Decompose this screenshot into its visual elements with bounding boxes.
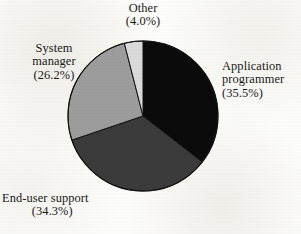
pie-label-system-manager-line1: System	[35, 41, 72, 55]
pie-label-other-percent: (4.0%)	[106, 15, 180, 28]
pie-label-other: Other (4.0%)	[106, 2, 180, 29]
pie-label-end-user-support-name: End-user support	[2, 191, 89, 205]
pie-label-application-programmer-line2: programmer	[222, 72, 284, 86]
pie-label-system-manager: System manager (26.2%)	[12, 42, 96, 82]
pie-label-end-user-support-percent: (34.3%)	[2, 205, 89, 218]
pie-label-application-programmer-line1: Application	[222, 59, 282, 73]
pie-label-system-manager-percent: (26.2%)	[12, 69, 96, 82]
pie-label-end-user-support: End-user support (34.3%)	[2, 192, 89, 219]
pie-chart-figure: Other (4.0%) System manager (26.2%) Appl…	[0, 0, 301, 234]
pie-label-application-programmer-percent: (35.5%)	[222, 87, 284, 100]
pie-label-other-name: Other	[129, 1, 158, 15]
pie-label-system-manager-line2: manager	[32, 54, 75, 68]
pie-label-application-programmer: Application programmer (35.5%)	[222, 60, 284, 100]
